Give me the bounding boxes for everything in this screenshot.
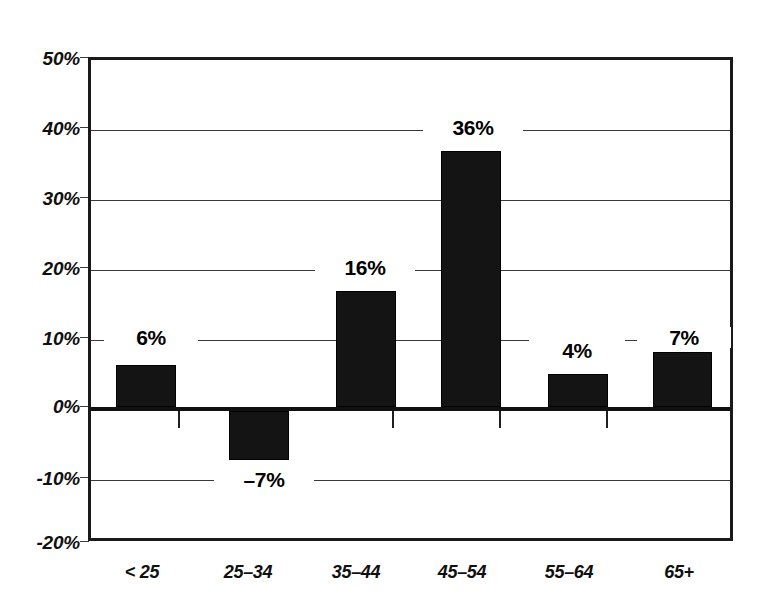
x-tick-label-35-44: 35–44 [306, 563, 406, 581]
gridline-30 [91, 200, 730, 201]
x-boundary-tick-1 [178, 411, 180, 428]
bar-25-34 [229, 411, 289, 460]
y-tick-label-20: 20% [43, 259, 80, 278]
bar-55-64 [548, 374, 608, 407]
gridline-neg10 [91, 480, 730, 481]
y-axis: 50% 40% 30% 20% 10% 0% -10% -20% [0, 0, 80, 614]
plot-area [88, 57, 733, 541]
x-tick-label-65plus: 65+ [629, 563, 729, 581]
y-tick-label-10: 10% [43, 329, 80, 348]
bar-65plus [653, 352, 712, 407]
value-label-lt25: 6% [104, 327, 198, 348]
x-boundary-tick-3 [392, 411, 394, 428]
value-label-45-54: 36% [423, 117, 523, 138]
y-tick-label-neg10: -10% [36, 469, 80, 488]
x-boundary-tick-5 [606, 411, 608, 428]
y-tick-label-0: 0% [53, 397, 80, 416]
bar-chart-figure: 50% 40% 30% 20% 10% 0% -10% -20% [0, 0, 764, 614]
bar-35-44 [336, 291, 396, 407]
value-label-55-64: 4% [529, 340, 625, 361]
value-label-65plus: 7% [637, 327, 731, 348]
bar-lt25 [116, 365, 176, 407]
value-label-25-34: –7% [214, 469, 314, 490]
x-tick-label-45-54: 45–54 [412, 563, 512, 581]
x-boundary-tick-4 [499, 411, 501, 428]
y-tick-label-30: 30% [43, 189, 80, 208]
x-tick-label-55-64: 55–64 [519, 563, 619, 581]
y-tick-label-40: 40% [43, 119, 80, 138]
x-tick-label-lt25: < 25 [92, 563, 192, 581]
value-label-35-44: 16% [315, 257, 415, 278]
y-tick-label-neg20: -20% [36, 533, 80, 552]
y-tick-mark-neg20 [80, 541, 89, 542]
zero-baseline [91, 407, 730, 411]
bar-45-54 [441, 151, 501, 407]
gridline-40 [91, 130, 730, 131]
y-tick-label-50: 50% [43, 49, 80, 68]
cropped-header-text [70, 0, 490, 5]
x-tick-label-25-34: 25–34 [198, 563, 298, 581]
